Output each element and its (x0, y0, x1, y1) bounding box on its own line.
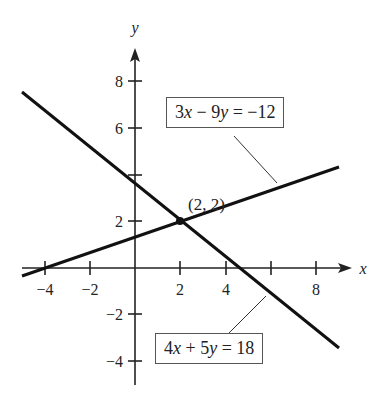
y-tick-label: −2 (106, 306, 123, 323)
eq1-coef-a: 3 (175, 102, 184, 122)
y-tick-label: 8 (115, 73, 123, 90)
leader-line-eq2 (228, 296, 266, 334)
y-tick-label: −4 (106, 353, 123, 370)
y-tick-label: 6 (115, 120, 123, 137)
eq1-var-x: x (184, 102, 192, 122)
x-tick-label: 2 (176, 281, 184, 298)
equation-label-2: 4x + 5y = 18 (155, 333, 263, 364)
y-axis-label: y (129, 19, 139, 37)
eq1-var-y: y (220, 102, 228, 122)
eq2-coef-b: + 5 (181, 338, 209, 358)
y-tick-label: 2 (115, 213, 123, 230)
equation-label-1: 3x − 9y = −12 (166, 97, 284, 128)
x-tick-label: 4 (222, 281, 230, 298)
eq2-var-x: x (173, 338, 181, 358)
intersection-label: (2, 2) (188, 195, 225, 214)
leader-line-eq1 (234, 136, 277, 183)
x-tick-label: −4 (36, 281, 53, 298)
x-axis-label: x (358, 260, 366, 277)
intersection-point (176, 217, 184, 225)
eq2-var-y: y (209, 338, 217, 358)
eq1-rhs: = −12 (228, 102, 275, 122)
x-tick-label: 8 (312, 281, 320, 298)
eq1-coef-b: − 9 (192, 102, 220, 122)
eq2-rhs: = 18 (217, 338, 254, 358)
eq2-coef-a: 4 (164, 338, 173, 358)
x-tick-label: −2 (81, 281, 98, 298)
